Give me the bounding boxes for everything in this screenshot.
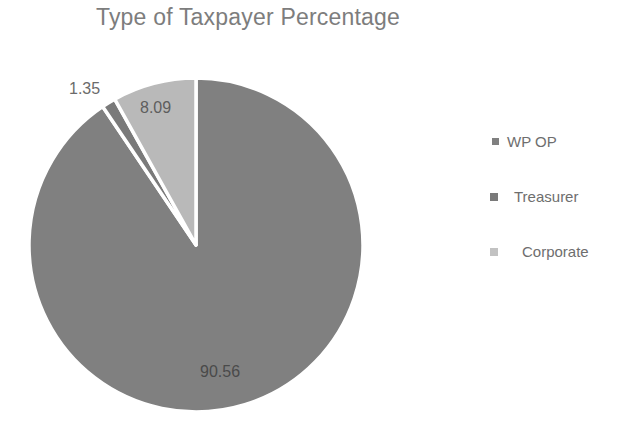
legend-swatch-icon-treasurer: [490, 193, 498, 201]
pie-slice-group: [29, 78, 363, 412]
legend-item-treasurer[interactable]: Treasurer: [490, 188, 578, 205]
data-label-corporate: 8.09: [140, 99, 171, 117]
legend-item-corporate[interactable]: Corporate: [490, 243, 589, 260]
pie-chart-figure: Type of Taxpayer Percentage 1.35 8.09 90…: [0, 0, 628, 433]
data-label-treasurer: 1.35: [69, 80, 100, 98]
legend-label-treasurer: Treasurer: [514, 188, 578, 205]
legend-label-corporate: Corporate: [522, 243, 589, 260]
legend-swatch-icon-corporate: [490, 248, 498, 256]
legend-label-wp-op: WP OP: [507, 133, 557, 150]
page-title: Type of Taxpayer Percentage: [78, 4, 418, 31]
legend-swatch-icon-wp-op: [492, 138, 499, 145]
data-label-wp-op: 90.56: [200, 363, 240, 381]
legend-item-wp-op[interactable]: WP OP: [490, 133, 557, 150]
